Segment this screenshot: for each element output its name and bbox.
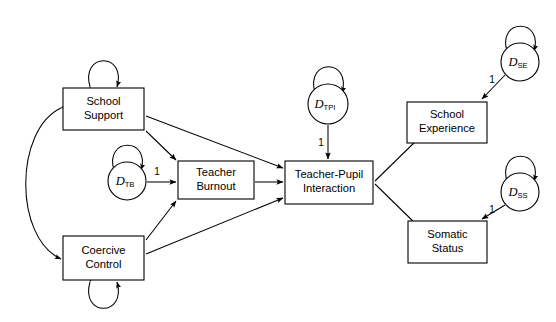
coercive-control-to-teacher-pupil-interaction [146, 198, 283, 254]
somatic-status-label-line2: Status [432, 242, 464, 254]
node-d-se[interactable]: DSE [501, 43, 539, 81]
node-d-ss[interactable]: DSS [501, 173, 539, 211]
sem-path-diagram: School Support Coercive Control Teacher … [0, 0, 556, 322]
school-support-label-line1: School [86, 95, 120, 107]
node-school-experience[interactable]: School Experience [407, 102, 487, 143]
teacher-burnout-label-line1: Teacher [196, 166, 236, 178]
label-d-tpi-to-tpi: 1 [318, 137, 324, 148]
node-teacher-pupil-interaction[interactable]: Teacher-Pupil Interaction [285, 161, 373, 204]
school-support-label-line2: Support [84, 109, 124, 121]
node-coercive-control[interactable]: Coercive Control [63, 236, 144, 280]
coercive-control-label-line2: Control [85, 258, 121, 270]
node-teacher-burnout[interactable]: Teacher Burnout [178, 161, 254, 199]
coercive-control-variance-loop [89, 282, 119, 308]
label-d-ss-to-ss: 1 [489, 204, 495, 215]
coercive-control-label-line1: Coercive [81, 244, 125, 256]
somatic-status-label-line1: Somatic [427, 228, 468, 240]
school-support-to-teacher-pupil-interaction [146, 116, 283, 168]
teacher-burnout-label-line2: Burnout [196, 180, 236, 192]
teacher-pupil-interaction-to-school-experience [375, 137, 420, 181]
label-d-se-to-se: 1 [489, 74, 495, 85]
diagram-canvas: School Support Coercive Control Teacher … [0, 0, 556, 322]
coercive-control-to-teacher-burnout [146, 201, 176, 240]
teacher-pupil-interaction-label-line1: Teacher-Pupil [295, 168, 363, 180]
school-support-variance-loop [89, 61, 119, 87]
school-support-coercive-control-covariance [26, 108, 61, 259]
node-d-tb[interactable]: DTB [108, 162, 146, 200]
teacher-pupil-interaction-label-line2: Interaction [303, 182, 355, 194]
label-d-tb-to-tb: 1 [154, 166, 160, 177]
node-school-support[interactable]: School Support [63, 88, 144, 130]
school-experience-label-line1: School [430, 108, 464, 120]
school-experience-label-line2: Experience [419, 122, 475, 134]
node-d-tpi[interactable]: DTPI [308, 84, 348, 124]
covariance-group [26, 108, 61, 259]
node-somatic-status[interactable]: Somatic Status [408, 221, 487, 263]
school-support-to-teacher-burnout [146, 131, 176, 160]
